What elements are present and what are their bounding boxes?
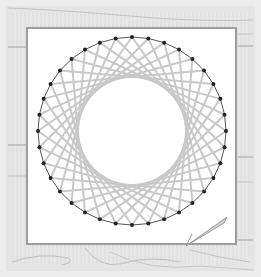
pin — [37, 113, 41, 117]
pin — [42, 161, 46, 165]
pin — [218, 161, 222, 165]
pin — [130, 35, 134, 39]
pin — [162, 41, 166, 45]
pin — [223, 113, 227, 117]
pin — [114, 222, 118, 226]
pin — [114, 36, 118, 40]
pin — [70, 201, 74, 205]
pin — [49, 176, 53, 180]
pin — [49, 82, 53, 86]
pin — [83, 48, 87, 52]
pin — [146, 36, 150, 40]
pin — [211, 176, 215, 180]
pin — [83, 210, 87, 214]
pin — [190, 57, 194, 61]
pin — [36, 129, 40, 133]
pin — [146, 222, 150, 226]
pin — [202, 189, 206, 193]
pin — [223, 145, 227, 149]
pin — [218, 97, 222, 101]
pen-icon — [186, 217, 227, 246]
pin — [177, 48, 181, 52]
thread-lines — [38, 37, 226, 225]
pin — [58, 189, 62, 193]
pin — [190, 201, 194, 205]
pin — [130, 223, 134, 227]
pin — [177, 210, 181, 214]
pin — [202, 69, 206, 73]
pins — [36, 35, 228, 227]
pin — [211, 82, 215, 86]
pin — [37, 145, 41, 149]
pin — [70, 57, 74, 61]
pin — [98, 41, 102, 45]
pin — [162, 217, 166, 221]
pin — [98, 217, 102, 221]
pin — [58, 69, 62, 73]
pin — [42, 97, 46, 101]
string-art-pattern — [0, 0, 261, 277]
pin — [224, 129, 228, 133]
